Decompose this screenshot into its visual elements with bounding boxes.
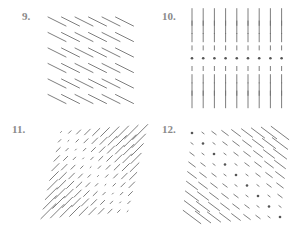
vector-arrow [235, 164, 237, 166]
zero-vector-dot [224, 57, 227, 60]
vector-arrow [242, 129, 253, 137]
vector-arrow [222, 131, 229, 136]
vector-arrow [262, 139, 275, 149]
vector-arrow [199, 182, 208, 189]
vector-arrow [92, 138, 98, 144]
vector-arrow [99, 156, 103, 160]
zero-vector-dot [268, 205, 271, 208]
vector-arrow [232, 130, 241, 137]
vector-arrow [107, 146, 114, 153]
vector-arrow [190, 152, 194, 155]
vector-arrow [108, 209, 112, 213]
zero-vector-dot [235, 174, 238, 177]
vector-arrow [83, 148, 86, 151]
vector-arrow [196, 202, 209, 212]
vector-arrow [70, 206, 80, 216]
vector-arrow [251, 128, 264, 138]
vector-arrow [50, 172, 59, 181]
vector-arrow [64, 189, 73, 198]
vector-arrow [198, 192, 209, 200]
vector-arrow [246, 195, 248, 197]
vector-arrow [123, 154, 132, 163]
vector-arrow [68, 140, 69, 141]
vector-arrow [254, 151, 263, 158]
vector-arrow [183, 210, 201, 223]
vector-arrow [202, 153, 204, 155]
vector-arrow [253, 139, 264, 147]
vector-arrow [264, 150, 275, 158]
vector-arrow [81, 166, 84, 169]
vector-arrow [95, 184, 98, 187]
vector-arrow [98, 208, 104, 214]
vector-arrow [115, 155, 122, 162]
vector-arrow [234, 152, 238, 155]
vector-arrow [246, 174, 248, 176]
vector-arrow [267, 184, 271, 187]
vector-arrow [114, 164, 120, 170]
vector-arrow [84, 191, 90, 197]
vector-arrow [191, 143, 193, 145]
vector-arrow [106, 175, 109, 178]
vector-arrow [233, 141, 240, 146]
zero-vector-dot [191, 57, 194, 60]
panel-12: 12. [150, 112, 307, 229]
vector-arrow [72, 198, 81, 207]
vector-arrow [220, 213, 231, 221]
vector-arrow [109, 127, 119, 137]
vector-arrow [233, 204, 240, 209]
vector-arrow [110, 201, 113, 204]
vector-arrow [57, 180, 66, 189]
zero-vector-dot [247, 57, 250, 60]
vector-arrow [89, 208, 96, 215]
vector-arrow [115, 145, 124, 154]
zero-vector-dot [224, 163, 227, 166]
vector-arrow [207, 212, 220, 222]
vector-arrow [211, 183, 218, 188]
vector-arrow [265, 161, 274, 168]
vector-arrow [88, 175, 91, 178]
vector-arrow [185, 191, 198, 201]
vector-arrow [93, 192, 97, 196]
vector-arrow [61, 132, 62, 133]
vector-arrow [257, 185, 259, 187]
vector-field-9 [0, 0, 150, 112]
zero-vector-dot [280, 57, 283, 60]
vector-arrow [52, 164, 59, 171]
vector-arrow [61, 164, 67, 170]
zero-vector-dot [213, 57, 216, 60]
vector-arrow [212, 173, 216, 176]
vector-arrow [129, 182, 135, 188]
vector-arrow [100, 137, 107, 144]
zero-vector-dot [191, 132, 194, 135]
vector-arrow [54, 156, 60, 162]
vector-arrow [213, 164, 215, 166]
vector-arrow [189, 162, 196, 167]
vector-arrow [212, 131, 216, 134]
vector-arrow [120, 202, 121, 203]
vector-arrow [76, 182, 82, 188]
vector-arrow [121, 183, 125, 187]
vector-arrow [77, 130, 81, 134]
vector-arrow [268, 216, 270, 218]
vector-arrow [133, 125, 148, 140]
panel-10: 10. [150, 0, 307, 112]
panel-11: 11. [0, 112, 150, 229]
vector-arrow [41, 204, 56, 219]
zero-vector-dot [202, 57, 205, 60]
vector-arrow [277, 183, 284, 188]
vector-arrow [268, 195, 270, 197]
zero-vector-dot [279, 216, 282, 219]
vector-arrow [232, 214, 241, 221]
vector-arrow [257, 206, 259, 208]
vector-arrow [120, 192, 123, 195]
vector-arrow [130, 163, 139, 172]
vector-arrow [127, 211, 128, 212]
vector-arrow [112, 193, 113, 194]
zero-vector-dot [213, 153, 216, 156]
vector-arrow [234, 194, 238, 197]
vector-arrow [114, 174, 118, 178]
zero-vector-dot [257, 195, 260, 198]
vector-arrow [103, 192, 106, 195]
vector-arrow [243, 140, 252, 147]
zero-vector-dot [269, 57, 272, 60]
